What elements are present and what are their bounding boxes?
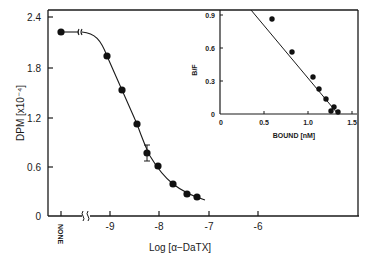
- x-tick-minus9: -9: [106, 221, 115, 232]
- inset-y-axis-title: B/F: [191, 64, 198, 76]
- main-fit-curve: [61, 29, 205, 200]
- main-y-ticks: [48, 17, 53, 167]
- data-point: [183, 190, 190, 197]
- inset-x-tick-1.0: 1.0: [303, 119, 313, 126]
- inset-x-tick-0.5: 0.5: [259, 119, 269, 126]
- data-point: [57, 28, 64, 35]
- data-point: [193, 193, 200, 200]
- data-point: [269, 16, 274, 21]
- x-tick-none: NONE: [57, 224, 64, 245]
- main-y-axis-title: DPM [x10⁻⁴]: [15, 85, 26, 141]
- data-point: [133, 120, 140, 127]
- inset-x-tick-labels: 0 0.5 1.0 1.5: [219, 119, 357, 126]
- main-x-ticks: [61, 211, 258, 216]
- inset-x-axis-title: BOUND [nM]: [273, 132, 315, 140]
- chart-canvas: 2.4 1.8 1.2 0.6 0 DPM [x10⁻⁴] NONE -9 -8…: [0, 0, 367, 259]
- inset-y-tick-0.3: 0.3: [205, 78, 215, 85]
- inset-x-tick-1.5: 1.5: [347, 119, 357, 126]
- data-point: [154, 162, 161, 169]
- y-tick-0.6: 0.6: [27, 162, 41, 173]
- x-tick-minus8: -8: [155, 221, 164, 232]
- y-tick-0: 0: [35, 211, 41, 222]
- x-tick-minus7: -7: [205, 221, 214, 232]
- inset-y-tick-0: 0: [211, 111, 215, 118]
- x-tick-minus6: -6: [254, 221, 263, 232]
- main-x-tick-labels: -9 -8 -7 -6: [106, 221, 263, 232]
- inset-y-tick-0.6: 0.6: [205, 45, 215, 52]
- x-axis-break-icon: [82, 211, 89, 221]
- data-point: [169, 180, 176, 187]
- data-point: [331, 104, 336, 109]
- main-plot-frame: [48, 10, 359, 216]
- data-point: [310, 74, 315, 79]
- data-point: [335, 109, 340, 114]
- data-point: [118, 86, 125, 93]
- data-point: [323, 96, 328, 101]
- inset-y-tick-labels: 0.9 0.6 0.3 0: [205, 12, 215, 118]
- main-x-axis-title: Log [α−DaTX]: [149, 242, 211, 253]
- inset-y-tick-0.9: 0.9: [205, 12, 215, 19]
- y-tick-1.8: 1.8: [27, 63, 41, 74]
- inset-plot-frame: [220, 10, 357, 114]
- data-point: [103, 52, 110, 59]
- inset-data-points: [269, 16, 340, 114]
- inset-x-tick-0: 0: [219, 119, 223, 126]
- y-tick-2.4: 2.4: [27, 12, 41, 23]
- main-y-tick-labels: 2.4 1.8 1.2 0.6 0: [27, 12, 41, 222]
- data-point: [289, 49, 294, 54]
- data-point: [316, 86, 321, 91]
- y-tick-1.2: 1.2: [27, 113, 41, 124]
- main-data-points: [57, 28, 200, 200]
